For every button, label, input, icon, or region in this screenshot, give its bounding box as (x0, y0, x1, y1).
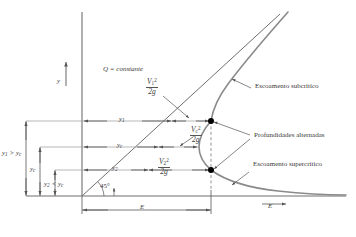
callout-supercritical: Escoamento supercrítico (253, 161, 322, 168)
callout-alternate-depths: Profundidades alternadas (254, 132, 325, 139)
E-dimension-label: E (140, 204, 144, 211)
velocity-head-2-label: V22 2g (158, 158, 170, 176)
velocity-head-2-denominator: 2g (158, 168, 170, 176)
velocity-head-1-label: V12 2g (146, 78, 158, 96)
leader-velocity-head-1 (163, 96, 189, 118)
dimension-label-yc-left: yc (30, 166, 35, 173)
curve-supercritical-branch (211, 170, 346, 195)
leader-alternate-up (214, 122, 250, 135)
specific-energy-diagram: y Q = constante V12 2g Vc2 2g V22 2g y1 … (0, 0, 356, 237)
dimension-label-y2: y2 (112, 165, 118, 172)
dimension-label-y2-lt-yc: y2 < yc (44, 181, 63, 188)
bottom-E-dimension (82, 190, 211, 214)
diagram-canvas (0, 0, 356, 237)
E-axis-label: E (268, 203, 272, 210)
velocity-head-c-label: Vc2 2g (190, 126, 202, 144)
dimension-label-y1: y1 (119, 116, 125, 123)
marker-point-y2 (208, 167, 214, 173)
marker-point-y1 (208, 118, 214, 124)
callout-leader-lines (214, 79, 251, 185)
leader-subcritical (232, 79, 251, 88)
y-axis-label: y (57, 78, 60, 85)
callout-subcritical: Escoamento subcrítico (255, 83, 319, 90)
axis-lines (26, 12, 346, 196)
q-constant-label: Q = constante (103, 66, 143, 73)
dimension-label-y1-gt-yc: y1 > yc (2, 150, 21, 157)
dimension-label-yc: yc (117, 142, 122, 149)
leader-alternate-dn (214, 139, 250, 169)
angle-45-label: 45° (100, 183, 110, 190)
velocity-head-1-denominator: 2g (146, 88, 158, 96)
velocity-head-c-denominator: 2g (190, 136, 202, 144)
